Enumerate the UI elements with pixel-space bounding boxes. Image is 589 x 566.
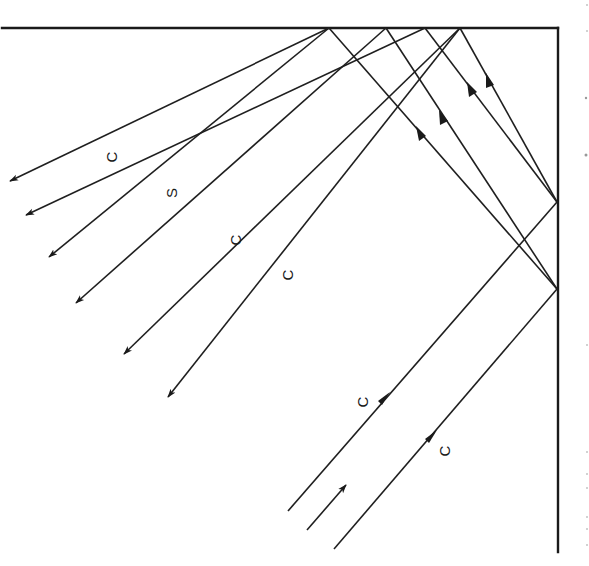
- arrow-icon: [439, 110, 448, 125]
- incoming-ray-1: [288, 202, 557, 511]
- arrow-icon: [416, 126, 426, 141]
- label-c-2: C: [227, 234, 244, 245]
- walls: [2, 28, 558, 552]
- direction-indicator-arrow: [307, 485, 346, 530]
- label-s: S: [163, 188, 180, 198]
- outgoing-rays: [10, 28, 460, 397]
- reflected-ray-3: [425, 28, 557, 202]
- reflected-ray-4: [460, 28, 557, 202]
- outgoing-ray-2: [26, 28, 425, 215]
- outgoing-ray-4: [76, 28, 386, 303]
- ray-labels: C S C C C C: [103, 151, 453, 456]
- arrow-icon: [378, 392, 390, 405]
- label-c-1: C: [103, 151, 120, 162]
- label-c-3: C: [279, 269, 296, 280]
- scan-artifacts: [585, 4, 588, 546]
- label-c-4: C: [354, 396, 371, 407]
- incoming-rays: [288, 202, 557, 549]
- ray-reflection-diagram: C S C C C C: [0, 0, 589, 566]
- label-c-5: C: [436, 445, 453, 456]
- reflected-ray-2: [386, 28, 557, 289]
- reflected-ray-1: [329, 28, 557, 289]
- reflected-rays-right-to-top: [329, 28, 557, 289]
